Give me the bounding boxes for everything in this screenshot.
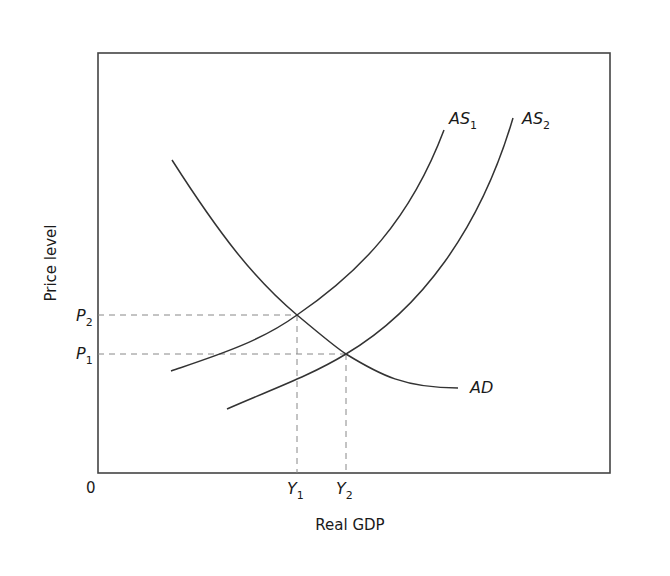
guide-lines <box>98 315 346 473</box>
y2-tick-label: Y2 <box>336 479 353 502</box>
x-axis-title: Real GDP <box>315 516 384 534</box>
ad-as-chart: AS1 AS2 AD P2 P1 Y1 Y2 0 Real GDP Price … <box>0 0 670 576</box>
ad-label: AD <box>469 378 493 397</box>
y1-tick-label: Y1 <box>287 479 304 502</box>
as1-label: AS1 <box>448 109 477 132</box>
as1-curve <box>171 130 444 371</box>
as2-label: AS2 <box>521 109 550 132</box>
p2-tick-label: P2 <box>76 306 93 329</box>
y-axis-title: Price level <box>42 224 60 301</box>
ad-curve <box>172 160 458 388</box>
p1-tick-label: P1 <box>76 344 93 367</box>
origin-label: 0 <box>86 479 96 497</box>
as2-curve <box>227 118 513 409</box>
